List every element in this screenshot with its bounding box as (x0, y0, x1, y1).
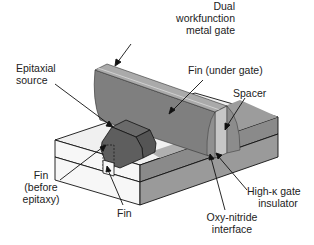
label-fbe-line2: (before (18, 181, 64, 193)
label-epi-line2: source (16, 74, 56, 86)
label-fin-under-gate: Fin (under gate) (188, 64, 263, 76)
label-epitaxial-source: Epitaxial source (16, 62, 56, 86)
label-spacer: Spacer (233, 87, 266, 99)
label-oxy-line2: interface (204, 223, 260, 235)
label-gate-line2: workfunction (139, 12, 235, 24)
label-gate-line3: metal gate (139, 24, 235, 36)
label-high-k: High-κ gate insulator (247, 185, 309, 209)
label-gate-line1: Dual (139, 0, 235, 12)
label-gate: Dual workfunction metal gate (139, 0, 235, 36)
label-oxy-nitride: Oxy-nitride interface (204, 211, 260, 235)
label-highk-line2: insulator (247, 197, 309, 209)
label-fbe-line1: Fin (18, 169, 64, 181)
label-fin: Fin (117, 207, 132, 219)
label-fin-before-epitaxy: Fin (before epitaxy) (18, 169, 64, 205)
label-highk-line1: High-κ gate (247, 185, 309, 197)
label-oxy-line1: Oxy-nitride (204, 211, 260, 223)
label-fbe-line3: epitaxy) (18, 193, 64, 205)
label-epi-line1: Epitaxial (16, 62, 56, 74)
